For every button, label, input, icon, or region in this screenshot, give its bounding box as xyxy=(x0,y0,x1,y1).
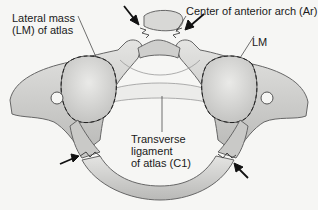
transverse-ligament xyxy=(104,83,214,104)
right-lateral-mass xyxy=(202,56,257,123)
left-transverse-foramen xyxy=(51,92,63,104)
anterior-arch xyxy=(138,40,180,58)
label-anterior-arch: Center of anterior arch (Ar) xyxy=(186,5,317,17)
fracture-arrow-top-left xyxy=(124,6,139,25)
anterior-arch-tubercle xyxy=(144,10,183,30)
label-transverse-line3: of atlas (C1) xyxy=(131,157,191,169)
label-transverse-line1: Transverse xyxy=(131,133,191,145)
right-transverse-foramen xyxy=(261,92,273,104)
label-lateral-mass-line1: Lateral mass xyxy=(12,12,75,24)
label-lm-right: LM xyxy=(252,36,267,48)
left-lateral-mass xyxy=(61,56,116,123)
label-transverse-ligament: Transverse ligament of atlas (C1) xyxy=(131,133,191,169)
label-transverse-line2: ligament xyxy=(131,145,191,157)
label-lateral-mass: Lateral mass (LM) of atlas xyxy=(12,12,75,36)
fracture-arrow-bottom-left xyxy=(60,154,79,164)
fracture-arrow-bottom-right xyxy=(234,163,248,178)
label-lateral-mass-line2: (LM) of atlas xyxy=(12,24,75,36)
atlas-diagram: Lateral mass (LM) of atlas Center of ant… xyxy=(0,0,318,210)
